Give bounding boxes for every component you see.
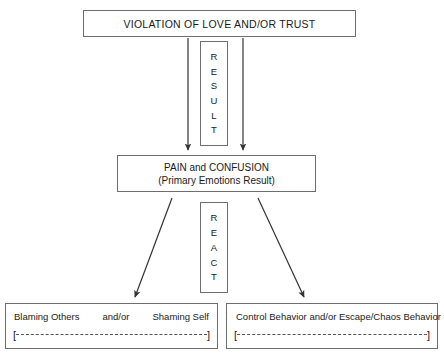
react-letter-5: T [211,272,217,282]
react-letter-1: R [211,213,218,223]
control-text-row: Control Behavior and/or Escape/Chaos Beh… [227,311,437,322]
flow-diagram: VIOLATION OF LOVE AND/OR TRUST R E S U L… [0,0,444,355]
blaming-andor-label: and/or [103,311,130,322]
control-bracket-close: ] [427,330,430,341]
node-react-stack: R E A C T [200,202,228,293]
pain-label-secondary: (Primary Emotions Result) [158,174,275,187]
result-letter-6: T [211,125,217,135]
node-blaming-others-shaming-self: Blaming Others and/or Shaming Self [ ] [5,303,218,349]
result-letter-1: R [211,52,218,62]
blaming-dashed-rule: [ ] [13,330,210,340]
result-letter-3: S [211,81,217,91]
result-letter-2: E [211,67,217,77]
shaming-self-label: Shaming Self [152,311,209,322]
react-letter-3: A [211,243,217,253]
blaming-bracket-close: ] [207,330,210,341]
react-letter-2: E [211,228,217,238]
node-control-escape-chaos-behavior: Control Behavior and/or Escape/Chaos Beh… [226,303,438,349]
arrow-pain-to-blaming [135,198,172,297]
control-dash-line [237,334,427,336]
violation-label: VIOLATION OF LOVE AND/OR TRUST [123,18,315,30]
blaming-others-label: Blaming Others [14,311,79,322]
result-letter-5: L [211,111,216,121]
blaming-dash-line [16,334,207,336]
arrow-pain-to-control [258,198,304,297]
node-pain-and-confusion: PAIN and CONFUSION (Primary Emotions Res… [117,155,316,192]
result-letter-4: U [211,96,218,106]
control-dashed-rule: [ ] [234,330,430,340]
pain-label-primary: PAIN and CONFUSION [164,161,269,174]
react-letter-4: C [211,258,218,268]
control-behavior-label: Control Behavior and/or Escape/Chaos Beh… [236,311,441,322]
node-result-stack: R E S U L T [200,41,228,146]
blaming-text-row: Blaming Others and/or Shaming Self [6,311,217,322]
node-violation-of-love-or-trust: VIOLATION OF LOVE AND/OR TRUST [83,10,356,37]
